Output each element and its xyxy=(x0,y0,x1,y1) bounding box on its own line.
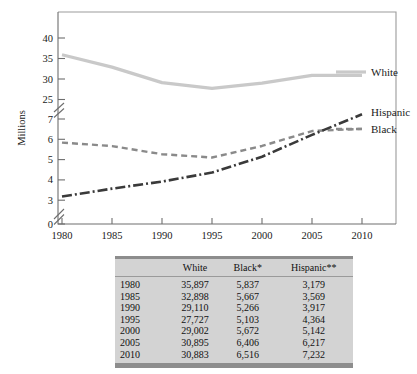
x-tick-label-1995: 1995 xyxy=(202,230,223,241)
table-row: 199029,1105,2663,917 xyxy=(115,302,353,314)
y-axis-ticks-upper: 40 35 30 25 xyxy=(43,33,66,106)
table-header-hispanic: Hispanic** xyxy=(274,259,353,277)
table-cell-hispanic: 3,179 xyxy=(274,277,353,291)
series-line-black xyxy=(62,129,362,158)
y-tick-label-4: 4 xyxy=(48,174,54,185)
series-line-white xyxy=(62,55,362,89)
table-cell-black: 5,667 xyxy=(221,291,274,303)
table-cell-year: 1995 xyxy=(115,314,169,326)
x-tick-label-1985: 1985 xyxy=(102,230,123,241)
plot-frame xyxy=(58,12,396,224)
table-cell-white: 27,727 xyxy=(169,314,221,326)
x-tick-label-1990: 1990 xyxy=(152,230,173,241)
x-tick-label-2010: 2010 xyxy=(352,230,373,241)
table-row: 200029,0025,6725,142 xyxy=(115,325,353,337)
table-cell-black: 5,266 xyxy=(221,302,274,314)
y-axis-ticks-lower: 7 6 5 4 3 0 xyxy=(48,114,65,230)
table-cell-black: 5,837 xyxy=(221,277,274,291)
y-axis-title: Millions xyxy=(16,110,27,146)
series-label-white: White xyxy=(371,66,398,78)
table-cell-year: 2000 xyxy=(115,325,169,337)
series-label-hispanic: Hispanic xyxy=(371,106,410,118)
table-cell-white: 30,883 xyxy=(169,349,221,361)
table-cell-black: 5,103 xyxy=(221,314,274,326)
table-cell-white: 29,002 xyxy=(169,325,221,337)
table-row: 200530,8956,4066,217 xyxy=(115,337,353,349)
data-table: White Black* Hispanic** 198035,8975,8373… xyxy=(115,256,353,368)
table-cell-year: 2005 xyxy=(115,337,169,349)
y-tick-label-30: 30 xyxy=(43,74,54,85)
table-cell-black: 5,672 xyxy=(221,325,274,337)
table-row: 201030,8836,5167,232 xyxy=(115,349,353,361)
table-row: 198532,8985,6673,569 xyxy=(115,291,353,303)
table-cell-white: 29,110 xyxy=(169,302,221,314)
table-cell-hispanic: 7,232 xyxy=(274,349,353,361)
table-cell-hispanic: 3,917 xyxy=(274,302,353,314)
data-table-container: White Black* Hispanic** 198035,8975,8373… xyxy=(115,256,353,368)
table-row: 198035,8975,8373,179 xyxy=(115,277,353,291)
table-cell-year: 1990 xyxy=(115,302,169,314)
y-tick-label-35: 35 xyxy=(43,53,54,64)
table-header-black: Black* xyxy=(221,259,274,277)
table-cell-white: 32,898 xyxy=(169,291,221,303)
plot-axes xyxy=(58,12,396,224)
table-cell-white: 30,895 xyxy=(169,337,221,349)
table-cell-year: 1980 xyxy=(115,277,169,291)
table-cell-hispanic: 3,569 xyxy=(274,291,353,303)
table-cell-black: 6,406 xyxy=(221,337,274,349)
table-cell-hispanic: 4,364 xyxy=(274,314,353,326)
y-tick-label-3: 3 xyxy=(48,195,53,206)
y-tick-label-40: 40 xyxy=(43,33,54,44)
x-tick-label-2000: 2000 xyxy=(252,230,273,241)
y-tick-label-25: 25 xyxy=(43,94,54,105)
y-tick-label-0: 0 xyxy=(48,219,53,230)
x-tick-label-2005: 2005 xyxy=(302,230,323,241)
table-cell-year: 1985 xyxy=(115,291,169,303)
table-row: 199527,7275,1034,364 xyxy=(115,314,353,326)
table-cell-hispanic: 6,217 xyxy=(274,337,353,349)
series-line-hispanic xyxy=(62,114,362,196)
table-header-row: White Black* Hispanic** xyxy=(115,259,353,277)
series-label-black: Black xyxy=(371,123,397,135)
table-bottom-rule xyxy=(115,363,353,368)
y-axis-break-upper xyxy=(54,103,64,118)
table-cell-black: 6,516 xyxy=(221,349,274,361)
table-header-white: White xyxy=(169,259,221,277)
series-paths xyxy=(62,55,362,197)
table-body: 198035,8975,8373,179198532,8985,6673,569… xyxy=(115,277,353,361)
y-tick-label-5: 5 xyxy=(48,154,53,165)
y-tick-label-6: 6 xyxy=(48,134,53,145)
y-tick-label-7: 7 xyxy=(48,114,53,125)
table-cell-white: 35,897 xyxy=(169,277,221,291)
x-axis-ticks: 1980 1985 1990 1995 2000 2005 2010 xyxy=(52,218,373,241)
table-cell-year: 2010 xyxy=(115,349,169,361)
line-chart: 40 35 30 25 7 6 5 4 3 0 xyxy=(0,0,417,250)
chart-figure: 40 35 30 25 7 6 5 4 3 0 xyxy=(0,0,417,250)
table-header-corner xyxy=(115,259,169,277)
table-cell-hispanic: 5,142 xyxy=(274,325,353,337)
x-tick-label-1980: 1980 xyxy=(52,230,73,241)
